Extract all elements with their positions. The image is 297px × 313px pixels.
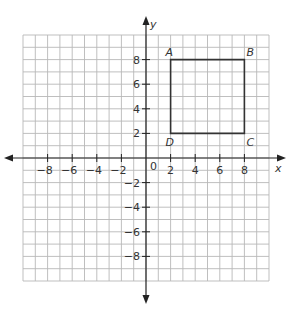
x-tick-label: −4 (86, 164, 102, 177)
vertex-label-d: D (166, 136, 174, 149)
origin-label: 0 (150, 160, 157, 173)
y-tick-label: 8 (133, 54, 140, 67)
x-axis-right-arrow-icon (277, 155, 286, 162)
y-tick-label: 4 (133, 103, 140, 116)
y-tick-label: 6 (133, 78, 140, 91)
y-tick-label: −4 (124, 201, 140, 214)
x-tick-label: −8 (36, 164, 52, 177)
x-tick-label: 6 (216, 164, 223, 177)
vertex-label-b: B (246, 46, 254, 59)
vertex-label-a: A (165, 46, 174, 59)
y-tick-label: −6 (124, 226, 140, 239)
tick-labels: −8−6−4−22468−8−6−4−224680xy (36, 18, 282, 263)
x-axis-left-arrow-icon (4, 155, 13, 162)
x-tick-label: 2 (167, 164, 174, 177)
x-tick-label: −2 (110, 164, 126, 177)
y-axis-up-arrow-icon (143, 16, 150, 25)
y-axis-down-arrow-icon (143, 295, 150, 304)
x-axis-label: x (274, 162, 282, 175)
y-tick-label: −8 (124, 250, 140, 263)
x-tick-label: 4 (192, 164, 199, 177)
y-tick-label: 2 (133, 127, 140, 140)
x-tick-label: −6 (61, 164, 77, 177)
y-axis-label: y (149, 18, 157, 31)
y-tick-label: −2 (124, 177, 140, 190)
x-tick-label: 8 (241, 164, 248, 177)
vertex-label-c: C (246, 136, 254, 149)
coordinate-plane: −8−6−4−22468−8−6−4−224680xy ABCD (0, 0, 297, 313)
